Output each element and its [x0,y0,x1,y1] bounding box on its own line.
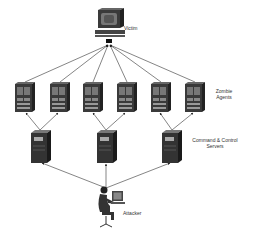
zombie-agent-3 [83,82,103,112]
victim-edges [25,45,195,82]
zombie-agent-5 [151,82,171,112]
zombie-agents-label: Zombie Agents [212,88,236,100]
cnc-zombie-edges [26,113,193,130]
attacker-label: Attacker [123,210,141,216]
cnc-server-2 [97,130,117,163]
zombie-agent-2 [50,82,70,112]
cnc-server-1 [31,130,51,163]
zombie-label-line2: Agents [212,94,236,100]
victim-computer-icon [95,8,125,43]
cnc-servers-label: Command & Control Servers [188,137,242,149]
attacker-person-icon [99,187,126,228]
attacker-cnc-edges [42,163,170,188]
zombie-agent-4 [117,82,137,112]
cnc-label-line2: Servers [188,143,242,149]
zombie-agent-1 [15,82,35,112]
cnc-server-3 [162,130,182,163]
victim-label: Victim [124,25,138,31]
zombie-agent-6 [185,82,205,112]
